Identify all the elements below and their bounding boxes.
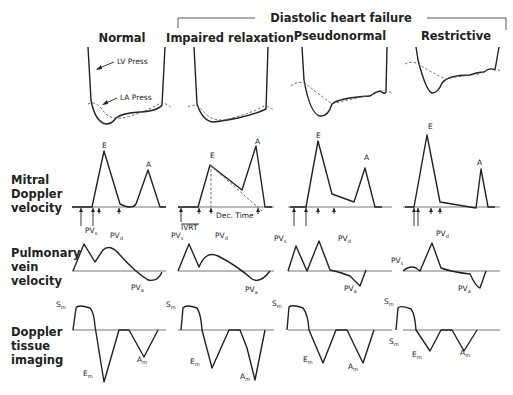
svg-text:Doppler: Doppler xyxy=(11,187,63,201)
dec-time-label: Dec. Time xyxy=(216,211,254,220)
am-label: Am xyxy=(460,348,470,358)
pvs-label: PVs xyxy=(85,226,98,236)
am-label: Am xyxy=(240,372,250,382)
tissue-panel-pseudonormal: SmEmAm xyxy=(272,299,392,372)
am-label: Am xyxy=(137,355,147,365)
mitral-panel-pseudonormal: EA xyxy=(288,131,392,226)
em-label: Em xyxy=(303,355,313,365)
pressure-annotations: LV Press LA Press xyxy=(96,57,152,105)
pulmonary-velocity-curve xyxy=(288,241,366,286)
column-title-impaired-relaxation: Impaired relaxation xyxy=(166,31,294,45)
row-label-tissue: Doppler tissue imaging xyxy=(11,325,63,367)
column-title-restrictive: Restrictive xyxy=(421,29,491,43)
sm-label: Sm xyxy=(56,300,66,310)
mitral-panel-restrictive: EA xyxy=(403,122,500,226)
pvs-label: PVs xyxy=(391,256,404,266)
e-wave-label: E xyxy=(210,151,215,160)
group-title: Diastolic heart failure xyxy=(270,11,412,25)
pvd-label: PVd xyxy=(436,229,449,239)
lv-press-label: LV Press xyxy=(117,57,148,66)
pulmonary-vein-row: PVsPVdPVaPVsPVdPVaPVsPVdPVaPVsPVdPVa xyxy=(72,226,500,295)
tissue-panel-restrictive: SmSmEmAm xyxy=(384,297,500,360)
pulmonary-panel-pseudonormal: PVsPVdPVa xyxy=(274,234,392,294)
sm-label: Sm xyxy=(166,300,176,310)
mitral-panel-normal: EA xyxy=(72,141,166,226)
pressure-panel-impaired xyxy=(188,47,274,122)
sm-label: Sm xyxy=(389,337,399,347)
pva-label: PVa xyxy=(458,284,471,294)
row-label-pulmonary: Pulmonary vein velocity xyxy=(11,246,81,288)
svg-text:Mitral: Mitral xyxy=(11,173,49,187)
mitral-velocity-curve xyxy=(72,151,166,207)
pva-label: PVa xyxy=(344,284,357,294)
pulmonary-velocity-curve xyxy=(178,244,270,280)
pulmonary-velocity-curve xyxy=(73,244,162,280)
pvd-label: PVd xyxy=(215,231,228,241)
pvd-label: PVd xyxy=(110,231,123,241)
column-title-pseudonormal: Pseudonormal xyxy=(294,29,387,43)
em-label: Em xyxy=(190,357,200,367)
tissue-panel-normal: SmEmAm xyxy=(56,300,166,382)
tissue-doppler-row: SmEmAmSmEmAmSmEmAmSmSmEmAm xyxy=(56,297,500,382)
mitral-doppler-row: EAEAEAEAIVRTDec. Time xyxy=(72,122,500,232)
pressure-panel-restrictive xyxy=(405,47,500,93)
pvd-label: PVd xyxy=(338,234,351,244)
a-wave-label: A xyxy=(255,137,261,146)
column-title-normal: Normal xyxy=(99,31,146,45)
pressure-panel-pseudonormal xyxy=(291,47,392,116)
a-wave-label: A xyxy=(477,158,483,167)
a-wave-label: A xyxy=(364,153,370,162)
pulmonary-panel-normal: PVsPVdPVa xyxy=(72,226,166,293)
tissue-velocity-curve xyxy=(396,307,477,351)
sm-label: Sm xyxy=(272,299,282,309)
svg-text:vein: vein xyxy=(11,260,38,274)
pvs-label: PVs xyxy=(274,234,287,244)
la-press-label: LA Press xyxy=(120,93,152,102)
tissue-velocity-curve xyxy=(181,306,265,380)
svg-text:tissue: tissue xyxy=(11,339,50,353)
svg-text:Doppler: Doppler xyxy=(11,325,63,339)
em-label: Em xyxy=(83,369,93,379)
row-label-mitral: Mitral Doppler velocity xyxy=(11,173,63,215)
em-label: Em xyxy=(412,350,422,360)
am-label: Am xyxy=(348,362,358,372)
pva-label: PVa xyxy=(131,283,144,293)
pulmonary-velocity-curve xyxy=(403,243,486,288)
tissue-velocity-curve xyxy=(287,306,374,363)
svg-text:imaging: imaging xyxy=(11,353,63,367)
group-bracket: Diastolic heart failure xyxy=(178,11,506,30)
svg-text:velocity: velocity xyxy=(11,201,62,215)
e-wave-label: E xyxy=(316,131,321,140)
lv-pressure-curve xyxy=(194,47,268,122)
deceleration-slope xyxy=(210,165,262,211)
mitral-velocity-curve xyxy=(405,135,495,208)
sm-label: Sm xyxy=(384,297,394,307)
pva-label: PVa xyxy=(245,285,258,295)
mitral-panel-impaired: EA xyxy=(178,137,274,222)
e-wave-label: E xyxy=(102,141,107,150)
pvs-label: PVs xyxy=(171,231,184,241)
svg-text:Pulmonary: Pulmonary xyxy=(11,246,81,260)
mitral-velocity-curve xyxy=(178,146,272,207)
diastolic-function-diagram: Diastolic heart failure Normal Impaired … xyxy=(0,0,513,395)
mitral-velocity-curve xyxy=(290,141,382,207)
tissue-panel-impaired: SmEmAm xyxy=(166,300,274,382)
pulmonary-panel-restrictive: PVsPVdPVa xyxy=(391,229,500,294)
svg-text:velocity: velocity xyxy=(11,274,62,288)
lv-pressure-curve xyxy=(302,47,387,116)
pressure-row xyxy=(88,47,500,124)
a-wave-label: A xyxy=(146,160,152,169)
e-wave-label: E xyxy=(428,122,433,131)
pulmonary-panel-impaired: PVsPVdPVa xyxy=(171,231,274,295)
la-pressure-curve xyxy=(88,102,172,118)
